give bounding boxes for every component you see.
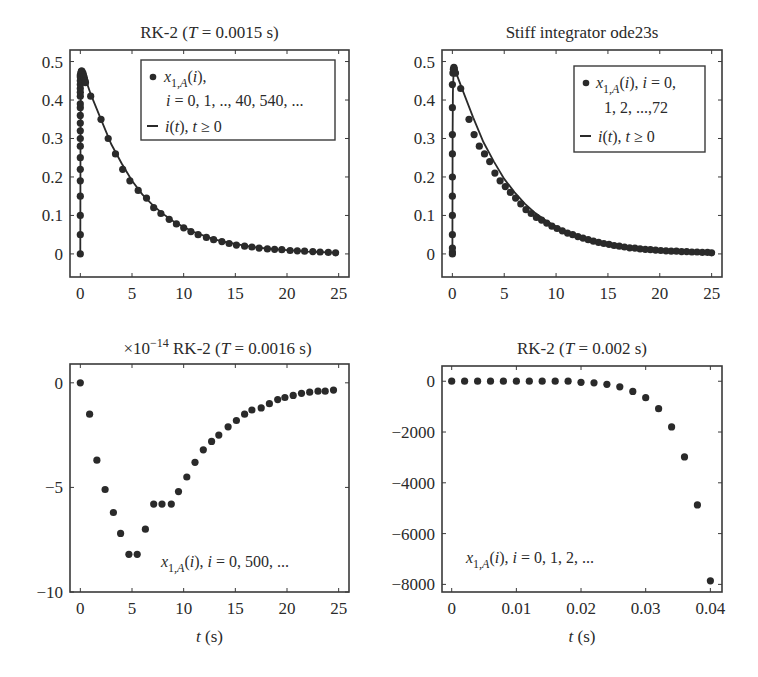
chart-title: RK-2 (T = 0.0015 s): [140, 23, 279, 42]
data-point: [526, 378, 533, 385]
data-point: [476, 143, 483, 150]
x-tick-label: 10: [548, 284, 565, 303]
data-point: [668, 423, 675, 430]
x-tick-label: 5: [128, 284, 137, 303]
y-tick-label: 0.5: [414, 53, 435, 72]
data-point: [330, 387, 337, 394]
data-point: [325, 249, 332, 256]
data-point: [497, 177, 504, 184]
data-point: [507, 189, 514, 196]
data-point: [77, 154, 84, 161]
data-point: [629, 388, 636, 395]
y-tick-label: 0.4: [414, 91, 436, 110]
legend-entry-line: i(t), t ≥ 0: [598, 128, 655, 146]
data-point: [322, 388, 329, 395]
x-tick-label: 0.02: [566, 599, 596, 618]
data-point: [500, 378, 507, 385]
data-point: [298, 390, 305, 397]
data-point: [134, 551, 141, 558]
data-point: [150, 501, 157, 508]
data-point: [258, 404, 265, 411]
data-point: [256, 245, 263, 252]
x-tick-label: 20: [279, 599, 296, 618]
y-tick-label: −2000: [391, 423, 435, 442]
y-tick-label: 0.2: [414, 168, 435, 187]
data-point: [82, 79, 89, 86]
data-point: [77, 231, 84, 238]
data-point: [77, 135, 84, 142]
data-point: [119, 166, 126, 173]
data-point: [241, 243, 248, 250]
legend-entry-dots-range: i = 0, 1, .., 40, 540, ...: [166, 92, 303, 109]
data-point: [158, 501, 165, 508]
data-point: [77, 250, 84, 257]
data-point: [513, 378, 520, 385]
legend-entry-line: i(t), t ≥ 0: [165, 118, 222, 136]
data-point: [77, 100, 84, 107]
data-point: [225, 423, 232, 430]
data-point: [77, 143, 84, 150]
data-point: [655, 405, 662, 412]
x-tick-label: 25: [703, 284, 720, 303]
data-point: [97, 116, 104, 123]
data-point: [191, 459, 198, 466]
data-point: [552, 378, 559, 385]
data-point: [168, 501, 175, 508]
data-point: [301, 248, 308, 255]
x-tick-label: 15: [599, 284, 616, 303]
data-point: [226, 240, 233, 247]
data-point: [681, 453, 688, 460]
data-point: [539, 378, 546, 385]
legend-entry-dots-range: 1, 2, ...,72: [604, 99, 668, 116]
data-point: [281, 394, 288, 401]
data-point: [449, 173, 456, 180]
data-point: [465, 116, 472, 123]
legend: x1,A(i), i = 0,1, 2, ...,72i(t), t ≥ 0: [574, 66, 705, 152]
data-point: [150, 204, 157, 211]
x-tick-label: 5: [128, 599, 137, 618]
data-point: [183, 473, 190, 480]
x-tick-label: 15: [227, 599, 244, 618]
panel-rk2-t0016: 0510152025−10−50×10−14 RK-2 (T = 0.0016 …: [36, 336, 349, 646]
data-point: [565, 378, 572, 385]
x-axis-label: t (s): [196, 627, 223, 646]
data-point: [274, 396, 281, 403]
data-point: [86, 411, 93, 418]
y-tick-label: −8000: [391, 575, 435, 594]
data-point: [449, 212, 456, 219]
data-point: [248, 406, 255, 413]
x-tick-label: 0: [447, 599, 456, 618]
data-point: [77, 120, 84, 127]
data-point: [175, 488, 182, 495]
data-point: [248, 243, 255, 250]
data-point: [180, 224, 187, 231]
data-point: [142, 526, 149, 533]
x-tick-label: 25: [330, 284, 347, 303]
data-point: [707, 577, 714, 584]
data-point: [77, 127, 84, 134]
data-point: [457, 85, 464, 92]
data-point: [126, 177, 133, 184]
data-point: [309, 248, 316, 255]
data-point: [512, 195, 519, 202]
y-tick-label: 0: [55, 374, 64, 393]
data-point: [195, 231, 202, 238]
data-point: [210, 236, 217, 243]
legend-dot-marker: [150, 74, 157, 81]
data-point: [110, 509, 117, 516]
data-point: [486, 158, 493, 165]
data-point: [200, 446, 207, 453]
plot-area: [77, 379, 337, 558]
chart-title: Stiff integrator ode23s: [506, 23, 659, 42]
data-point: [87, 93, 94, 100]
y-tick-label: 0: [55, 245, 64, 264]
data-point: [491, 170, 498, 177]
y-tick-label: −6000: [391, 525, 435, 544]
data-point: [187, 228, 194, 235]
data-point: [77, 177, 84, 184]
x-tick-label: 0: [448, 284, 457, 303]
x-tick-label: 20: [279, 284, 296, 303]
data-point: [117, 530, 124, 537]
x-tick-label: 10: [175, 599, 192, 618]
y-tick-label: 0.5: [42, 53, 63, 72]
